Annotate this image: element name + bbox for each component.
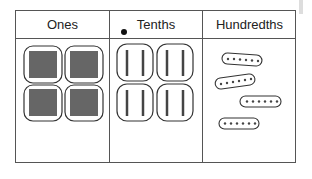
place-value-models bbox=[0, 0, 312, 179]
hundredths-groups bbox=[214, 53, 281, 129]
tenths-groups bbox=[117, 44, 193, 121]
ones-blocks bbox=[24, 46, 103, 121]
